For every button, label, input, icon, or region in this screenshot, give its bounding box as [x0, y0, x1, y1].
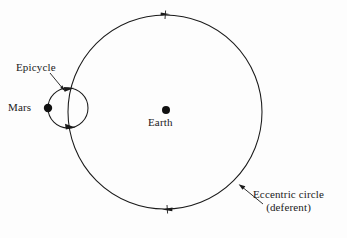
diagram-canvas: Epicycle Mars Earth Eccentric circle (de… [0, 0, 347, 238]
mars-label: Mars [8, 101, 31, 114]
earth-label: Earth [148, 116, 173, 129]
epicycle-top-marker-icon [64, 87, 75, 92]
earth-point [162, 106, 170, 114]
epicycle-leader-line [50, 73, 66, 92]
deferent-label-line2: (deferent) [253, 201, 324, 214]
mars-point [44, 104, 52, 112]
epicycle-label: Epicycle [16, 61, 56, 74]
deferent-bottom-marker-icon [162, 205, 173, 214]
deferent-label-line1: Eccentric circle [253, 188, 324, 200]
deferent-label: Eccentric circle (deferent) [253, 188, 324, 213]
